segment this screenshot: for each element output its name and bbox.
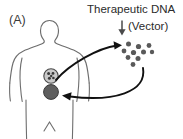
target-cell-nucleus-dot bbox=[52, 77, 55, 80]
groin-line bbox=[44, 122, 55, 131]
caption-line-therapeutic-dna: Therapeutic DNA bbox=[87, 3, 176, 15]
arrow-vector-to-cell bbox=[62, 68, 143, 101]
vector-particle-dot bbox=[136, 44, 141, 49]
gene-therapy-figure-panel: (A) Therapeutic DNA (Vector) bbox=[0, 0, 183, 139]
vector-particle-dot bbox=[122, 49, 127, 54]
vector-particle-dot bbox=[131, 62, 136, 67]
vector-particle-dot bbox=[126, 42, 131, 47]
arrow-cell-to-vector-head bbox=[114, 41, 123, 49]
target-cell-nucleus-dot bbox=[50, 75, 52, 77]
head-and-left-shoulder-outline bbox=[10, 21, 50, 84]
vector-particle-dot bbox=[136, 56, 141, 61]
vector-particle-dot bbox=[141, 50, 146, 55]
modified-cell bbox=[44, 85, 59, 100]
caption-line-vector: (Vector) bbox=[128, 20, 168, 32]
right-torso-side-line bbox=[72, 100, 73, 139]
vector-particle-dot bbox=[150, 50, 154, 54]
left-arm-inner-line bbox=[20, 58, 22, 102]
right-arm-inner-line bbox=[77, 58, 79, 102]
target-cell-nucleus-dot bbox=[52, 72, 55, 75]
target-cell-nucleus-dot bbox=[47, 72, 50, 75]
therapeutic-dna-vector-cluster bbox=[122, 42, 155, 67]
vector-particle-dot bbox=[131, 50, 136, 55]
vector-label-arrow-icon bbox=[118, 21, 125, 36]
arrow-vector-to-cell-head bbox=[62, 92, 72, 100]
vector-label-arrow-head bbox=[118, 29, 125, 35]
target-cell-nucleus-dot bbox=[48, 77, 51, 80]
figure-canvas: (A) Therapeutic DNA (Vector) bbox=[0, 0, 183, 139]
left-arm-outer-line bbox=[10, 83, 11, 101]
target-cell bbox=[44, 69, 58, 83]
vector-particle-dot bbox=[126, 55, 131, 60]
modified-cell-body bbox=[44, 85, 59, 100]
left-torso-side-line bbox=[26, 100, 27, 139]
vector-particle-dot bbox=[147, 43, 152, 48]
arrow-vector-to-cell-path bbox=[70, 68, 143, 98]
panel-label: (A) bbox=[9, 13, 26, 27]
